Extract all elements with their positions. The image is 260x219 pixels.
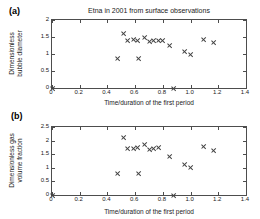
chart-b-y-tick-label: 2.5 (35, 123, 49, 129)
chart-a-x-tick-label: 1.0 (185, 89, 193, 95)
data-point-marker (211, 40, 216, 45)
data-point-marker (135, 145, 140, 150)
chart-a-x-tick-label: 0.6 (130, 89, 138, 95)
chart-b-x-tick (246, 192, 247, 195)
data-point-marker (136, 171, 141, 176)
chart-b-x-tick (80, 192, 81, 195)
chart-a-x-tick-label: 0.4 (102, 89, 110, 95)
data-point-marker (182, 162, 187, 167)
chart-a-x-tick (163, 85, 164, 88)
data-point-marker (188, 52, 193, 57)
chart-a-y-tick (243, 54, 246, 55)
data-point-marker (156, 145, 161, 150)
data-point-marker (125, 38, 130, 43)
data-point-marker (167, 154, 172, 159)
chart-b-x-tick (135, 127, 136, 130)
chart-a-plot-area (51, 19, 247, 89)
chart-b-y-tick-label: 1 (35, 164, 49, 170)
chart-a-x-axis-label: Time/duration of the first period (51, 99, 247, 106)
chart-b-x-tick (191, 127, 192, 130)
chart-a-x-tick (80, 85, 81, 88)
data-point-marker (151, 146, 156, 151)
data-point-marker (125, 146, 130, 151)
data-point-marker (201, 37, 206, 42)
chart-b-x-tick-label: 0.8 (158, 196, 166, 202)
chart-b-x-axis-label: Time/duration of the first period (51, 208, 247, 215)
data-point-marker (188, 165, 193, 170)
chart-b-plot-area (51, 126, 247, 196)
chart-b-x-tick (191, 192, 192, 195)
chart-b-x-tick (246, 127, 247, 130)
chart-b-x-tick-label: 1.4 (241, 196, 249, 202)
chart-b-y-tick (52, 141, 55, 142)
chart-a-title: Etna in 2001 from surface observations (51, 7, 247, 14)
data-point-marker (131, 37, 136, 42)
chart-a-x-tick (218, 20, 219, 23)
chart-a-x-tick (135, 85, 136, 88)
panel-a: (a) Etna in 2001 from surface observatio… (0, 0, 260, 108)
data-point-marker (142, 142, 147, 147)
chart-a-y-tick-label: 0.5 (35, 67, 49, 73)
chart-b-y-tick (52, 154, 55, 155)
data-point-marker (160, 38, 165, 43)
chart-b-x-tick-label: 0.4 (102, 196, 110, 202)
data-point-marker (135, 38, 140, 43)
chart-a-y-tick (52, 20, 55, 21)
chart-a-x-tick (218, 85, 219, 88)
data-point-marker (115, 56, 120, 61)
data-point-marker (156, 38, 161, 43)
chart-b-y-tick (52, 127, 55, 128)
chart-b-y-tick (52, 168, 55, 169)
chart-a-y-tick-label: 1 (35, 50, 49, 56)
chart-a-y-tick-label: 1.5 (35, 33, 49, 39)
chart-b-x-tick (135, 192, 136, 195)
chart-b-y-tick (243, 141, 246, 142)
panel-a-label: (a) (9, 6, 20, 16)
chart-a-x-tick (163, 20, 164, 23)
chart-a-y-axis-label-line2: bubble diameter (15, 16, 23, 92)
chart-a-x-tick-label: 0 (49, 89, 52, 95)
chart-b-x-tick (218, 127, 219, 130)
data-point-marker (115, 171, 120, 176)
data-point-marker (147, 39, 152, 44)
data-point-marker (201, 144, 206, 149)
chart-a-x-tick (246, 85, 247, 88)
chart-a-x-tick-label: 0.2 (75, 89, 83, 95)
chart-a-y-tick-label: 0 (35, 84, 49, 90)
chart-a-y-tick (52, 37, 55, 38)
panel-b-label: (b) (11, 111, 23, 121)
chart-b-y-tick-label: 0 (35, 191, 49, 197)
chart-a-x-tick (80, 20, 81, 23)
chart-a-y-tick (243, 20, 246, 21)
chart-a-x-tick (107, 20, 108, 23)
chart-b-x-tick (107, 127, 108, 130)
chart-a-x-tick (191, 20, 192, 23)
data-point-marker (171, 193, 176, 198)
chart-b-x-tick (163, 127, 164, 130)
data-point-marker (182, 49, 187, 54)
chart-a-y-tick (243, 71, 246, 72)
data-point-marker (131, 146, 136, 151)
chart-b-x-tick-label: 0.2 (75, 196, 83, 202)
chart-a-x-tick (135, 20, 136, 23)
chart-b-y-tick-label: 2 (35, 137, 49, 143)
chart-b-y-axis-label-line2: volume fraction (15, 123, 23, 199)
chart-a-x-tick-label: 1.4 (241, 89, 249, 95)
chart-b-y-tick (52, 181, 55, 182)
chart-a-x-tick (107, 85, 108, 88)
chart-b-y-tick (243, 127, 246, 128)
chart-a-x-tick (191, 85, 192, 88)
chart-a-x-tick (246, 20, 247, 23)
chart-b-x-tick-label: 0 (49, 196, 52, 202)
chart-a-y-axis-label: Dimensionless bubble diameter (8, 16, 23, 92)
chart-b-x-tick (163, 192, 164, 195)
chart-b-y-axis-label-line1: Dimensionless gas (8, 123, 16, 199)
chart-a-y-tick (52, 71, 55, 72)
chart-b-y-tick (243, 154, 246, 155)
data-point-marker (142, 35, 147, 40)
data-point-marker (171, 86, 176, 91)
chart-b-data-layer (52, 127, 246, 195)
chart-a-y-tick (52, 54, 55, 55)
chart-b-x-tick-label: 1.2 (213, 196, 221, 202)
chart-a-y-tick-label: 2 (35, 16, 49, 22)
